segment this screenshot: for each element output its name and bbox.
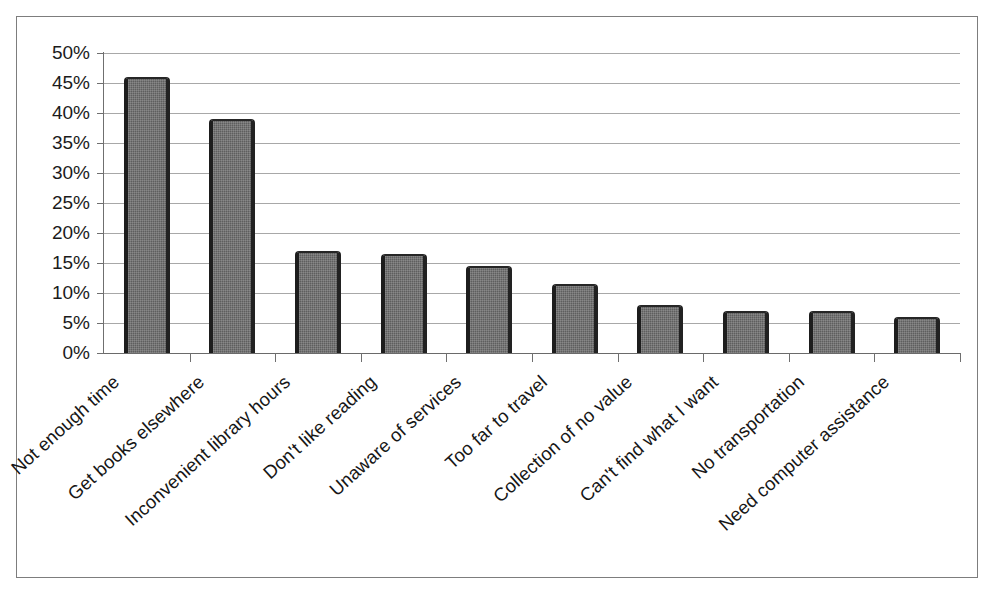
bar — [809, 311, 855, 353]
y-axis-tick-mark — [97, 293, 104, 294]
bar — [552, 284, 598, 353]
y-axis-tick-mark — [97, 53, 104, 54]
gridline — [104, 53, 960, 54]
bar — [723, 311, 769, 353]
x-axis-tick-mark — [532, 353, 533, 362]
x-axis-tick-mark — [446, 353, 447, 362]
x-axis-tick-mark — [190, 353, 191, 362]
x-axis-tick-mark — [874, 353, 875, 362]
y-axis-tick-mark — [97, 113, 104, 114]
bar — [637, 305, 683, 353]
gridline — [104, 83, 960, 84]
x-axis-tick-mark — [618, 353, 619, 362]
gridline — [104, 113, 960, 114]
y-axis-tick-mark — [97, 83, 104, 84]
y-axis-tick-label: 10% — [30, 283, 90, 302]
y-axis-tick-label: 45% — [30, 73, 90, 92]
bar — [381, 254, 427, 353]
y-axis-tick-mark — [97, 143, 104, 144]
y-axis-tick-mark — [97, 173, 104, 174]
x-axis-tick-mark — [275, 353, 276, 362]
chart-figure: 50%45%40%35%30%25%20%15%10%5%0% Not enou… — [0, 0, 994, 601]
y-axis-tick-mark — [97, 263, 104, 264]
bar — [894, 317, 940, 353]
y-axis-tick-label: 50% — [30, 43, 90, 62]
x-axis-tick-mark — [789, 353, 790, 362]
x-axis-tick-mark — [703, 353, 704, 362]
y-axis-tick-label: 25% — [30, 193, 90, 212]
y-axis-tick-label: 15% — [30, 253, 90, 272]
y-axis-tick-mark — [97, 233, 104, 234]
y-axis-tick-labels: 50%45%40%35%30%25%20%15%10%5%0% — [28, 0, 90, 601]
y-axis-tick-mark — [97, 203, 104, 204]
x-axis-tick-mark — [361, 353, 362, 362]
y-axis-tick-label: 35% — [30, 133, 90, 152]
y-axis-tick-label: 0% — [30, 343, 90, 362]
y-axis-tick-mark — [97, 323, 104, 324]
y-axis-tick-label: 20% — [30, 223, 90, 242]
plot-area — [104, 53, 960, 353]
bar — [124, 77, 170, 353]
y-axis-tick-label: 40% — [30, 103, 90, 122]
y-axis-tick-label: 5% — [30, 313, 90, 332]
bar — [209, 119, 255, 353]
y-axis-tick-mark — [97, 353, 104, 354]
bar — [295, 251, 341, 353]
bar — [466, 266, 512, 353]
x-axis-tick-mark — [960, 353, 961, 362]
y-axis-tick-label: 30% — [30, 163, 90, 182]
